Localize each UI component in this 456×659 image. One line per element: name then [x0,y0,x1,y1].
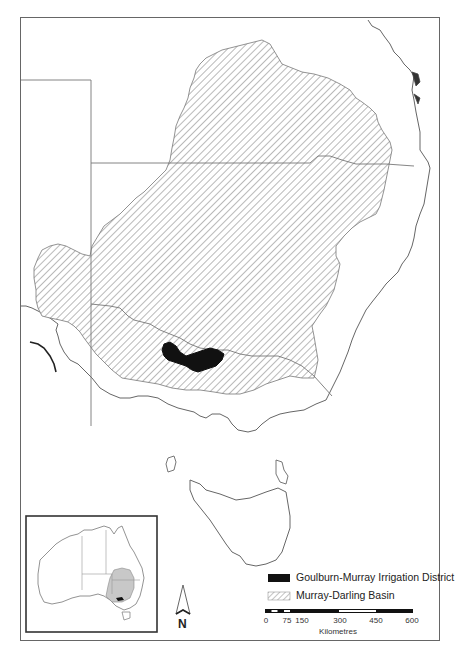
legend-label-irrigation: Goulburn-Murray Irrigation District [296,571,454,583]
scale-unit-label: Kilometres [319,627,357,636]
flinders-island [276,460,288,484]
scale-tick-150: 150 [295,616,308,625]
murray-darling-basin [34,40,392,394]
north-arrow-icon [176,585,190,614]
tasmania [190,480,290,566]
map-canvas [0,0,456,659]
scale-bar [265,609,413,613]
scale-tick-0: 0 [264,616,268,625]
legend-swatch-basin [268,592,290,600]
scale-tick-450: 450 [369,616,382,625]
scale-tick-300: 300 [333,616,346,625]
legend-label-basin: Murray-Darling Basin [296,589,395,601]
scale-tick-600: 600 [405,616,418,625]
king-island [166,456,176,472]
coorong-coast [30,342,56,372]
north-label: N [178,617,187,631]
qld-coast-islands [412,72,420,104]
scale-tick-75: 75 [283,616,292,625]
legend-swatch-irrigation [268,574,290,582]
